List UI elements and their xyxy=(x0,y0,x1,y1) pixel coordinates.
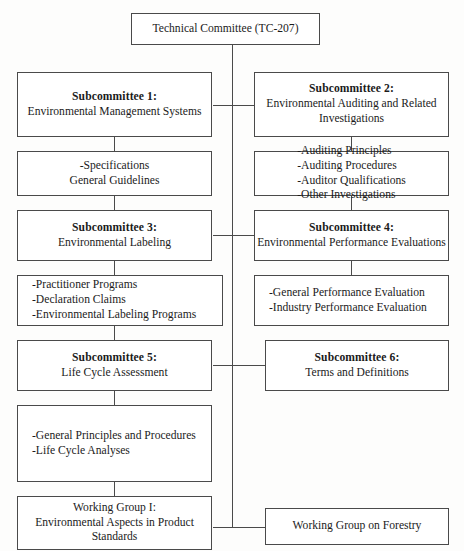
node-subcommittee-6-title: Subcommittee 6: xyxy=(315,351,400,366)
node-subcommittee-1[interactable]: Subcommittee 1: Environmental Management… xyxy=(17,72,212,137)
node-subcommittee-5-detail[interactable]: -General Principles and Procedures-Life … xyxy=(17,405,212,482)
node-subcommittee-2[interactable]: Subcommittee 2: Environmental Auditing a… xyxy=(254,72,449,137)
node-subcommittee-5-title: Subcommittee 5: xyxy=(72,351,157,366)
node-subcommittee-1-title: Subcommittee 1: xyxy=(72,90,157,105)
node-working-group-forestry[interactable]: Working Group on Forestry xyxy=(265,508,449,545)
connector-sc3detail-to-sc5 xyxy=(114,326,115,340)
connector-row-working-groups xyxy=(213,527,265,528)
node-subcommittee-3-detail-lines: -Practitioner Programs-Declaration Claim… xyxy=(32,278,196,322)
node-subcommittee-3-detail[interactable]: -Practitioner Programs-Declaration Claim… xyxy=(17,275,223,326)
connector-row-sc5-sc6 xyxy=(213,365,265,366)
node-subcommittee-2-subtitle: Environmental Auditing and Related Inves… xyxy=(255,97,448,127)
node-subcommittee-5-subtitle: Life Cycle Assessment xyxy=(61,366,167,381)
node-subcommittee-1-detail-lines: -SpecificationsGeneral Guidelines xyxy=(70,159,160,189)
node-technical-committee-label: Technical Committee (TC-207) xyxy=(153,22,299,37)
node-subcommittee-3-title: Subcommittee 3: xyxy=(72,221,157,236)
node-working-group-1-title: Working Group I: xyxy=(73,501,156,516)
connector-sc3-to-detail xyxy=(114,261,115,275)
org-chart: Technical Committee (TC-207) Subcommitte… xyxy=(0,0,464,551)
node-subcommittee-6[interactable]: Subcommittee 6: Terms and Definitions xyxy=(265,340,449,391)
node-subcommittee-5[interactable]: Subcommittee 5: Life Cycle Assessment xyxy=(17,340,212,391)
node-subcommittee-4[interactable]: Subcommittee 4: Environmental Performanc… xyxy=(254,210,449,261)
node-subcommittee-1-subtitle: Environmental Management Systems xyxy=(28,105,202,120)
node-working-group-1[interactable]: Working Group I: Environmental Aspects i… xyxy=(17,496,212,550)
node-subcommittee-2-detail[interactable]: -Auditing Principles-Auditing Procedures… xyxy=(254,151,449,196)
node-subcommittee-6-subtitle: Terms and Definitions xyxy=(305,366,409,381)
node-subcommittee-4-detail-lines: -General Performance Evaluation-Industry… xyxy=(269,286,427,316)
node-subcommittee-3-subtitle: Environmental Labeling xyxy=(58,236,171,251)
node-subcommittee-4-title: Subcommittee 4: xyxy=(309,221,394,236)
node-subcommittee-4-detail[interactable]: -General Performance Evaluation-Industry… xyxy=(254,275,449,326)
node-subcommittee-4-subtitle: Environmental Performance Evaluations xyxy=(257,236,446,251)
node-working-group-1-subtitle: Environmental Aspects in Product Standar… xyxy=(18,516,211,546)
node-subcommittee-2-detail-lines: -Auditing Principles-Auditing Procedures… xyxy=(297,144,406,203)
connector-sc1-to-detail xyxy=(114,137,115,151)
connector-sc1detail-to-sc3 xyxy=(114,196,115,210)
node-working-group-forestry-label: Working Group on Forestry xyxy=(293,519,422,534)
node-subcommittee-1-detail[interactable]: -SpecificationsGeneral Guidelines xyxy=(17,151,212,196)
node-subcommittee-2-title: Subcommittee 2: xyxy=(309,82,394,97)
connector-sc5-to-detail xyxy=(114,391,115,405)
connector-spine xyxy=(232,45,233,528)
connector-sc5detail-to-wg1 xyxy=(114,482,115,496)
connector-sc4-to-detail xyxy=(351,261,352,275)
node-subcommittee-5-detail-lines: -General Principles and Procedures-Life … xyxy=(32,429,196,459)
node-subcommittee-3[interactable]: Subcommittee 3: Environmental Labeling xyxy=(17,210,212,261)
node-technical-committee[interactable]: Technical Committee (TC-207) xyxy=(131,13,320,45)
